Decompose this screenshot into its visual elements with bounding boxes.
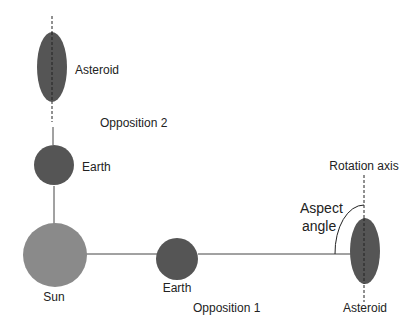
- label-earth-opposition1: Earth: [163, 281, 192, 295]
- diagram-canvas: Asteroid Opposition 2 Earth Sun Earth Op…: [0, 0, 417, 329]
- label-sun: Sun: [43, 290, 64, 304]
- label-opposition2: Opposition 2: [100, 116, 168, 130]
- earth-opposition2: [34, 145, 74, 185]
- asteroid-opposition1: [350, 218, 380, 284]
- label-aspect: Aspect: [300, 200, 343, 216]
- label-earth-opposition2: Earth: [82, 160, 111, 174]
- label-asteroid-opposition1: Asteroid: [343, 301, 387, 315]
- label-angle: angle: [302, 218, 336, 234]
- label-rotation-axis: Rotation axis: [329, 159, 398, 173]
- diagram-svg: Asteroid Opposition 2 Earth Sun Earth Op…: [0, 0, 417, 329]
- earth-opposition1: [156, 238, 198, 280]
- label-opposition1: Opposition 1: [193, 301, 261, 315]
- label-asteroid-opposition2: Asteroid: [75, 63, 119, 77]
- sun: [23, 223, 87, 287]
